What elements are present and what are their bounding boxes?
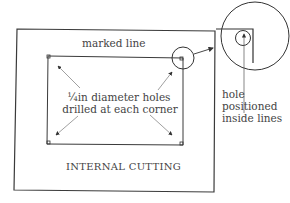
arrow-bottom-left	[56, 116, 78, 135]
arrow-top-right	[158, 72, 172, 90]
holes-label-line2: drilled at each corner	[60, 103, 180, 115]
holes-label-line1: ¼in diameter holes	[64, 91, 174, 103]
arrow-bottom-right	[150, 115, 172, 135]
diagram-caption: INTERNAL CUTTING	[66, 161, 181, 173]
arrow-to-detail	[194, 48, 213, 54]
marked-line-label: marked line	[82, 37, 146, 49]
hole-label-line2: positioned	[222, 100, 277, 112]
detail-circle	[221, 2, 289, 70]
hole-label-line1: hole	[222, 88, 245, 100]
arrow-top-left	[58, 66, 80, 88]
hole-label-line3: inside lines	[222, 112, 282, 124]
